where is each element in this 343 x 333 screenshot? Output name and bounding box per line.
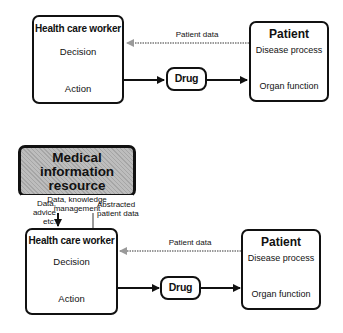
disease-process-label: Disease process xyxy=(251,45,327,55)
disease-process-label: Disease process xyxy=(243,253,319,263)
medical-information-resource-box: Medical information resource Data, knowl… xyxy=(18,145,136,197)
action-label: Action xyxy=(27,293,116,304)
health-care-worker-title: Health care worker xyxy=(27,235,116,246)
mir-title-line1: Medical information xyxy=(21,151,133,179)
abstracted-data-label: Abstracted patient data xyxy=(97,200,149,218)
patient-title: Patient xyxy=(251,27,327,41)
patient-box-bottom: Patient Disease process Organ function xyxy=(241,229,321,310)
data-advice-line1: Data, xyxy=(26,199,56,208)
drug-box-top: Drug xyxy=(166,67,207,91)
drug-label: Drug xyxy=(168,69,205,88)
abstracted-line2: patient data xyxy=(97,209,149,218)
decision-label: Decision xyxy=(27,256,116,267)
action-label: Action xyxy=(34,83,122,94)
patient-title: Patient xyxy=(243,235,319,249)
data-advice-label: Data, advice etc. xyxy=(26,199,56,226)
patient-data-label-top: Patient data xyxy=(162,30,232,39)
health-care-worker-title: Health care worker xyxy=(34,23,122,34)
data-advice-line3: etc. xyxy=(26,217,56,226)
organ-function-label: Organ function xyxy=(243,289,319,299)
mir-title-line2: resource xyxy=(21,179,133,193)
drug-box-bottom: Drug xyxy=(160,276,201,300)
patient-box-top: Patient Disease process Organ function xyxy=(249,21,329,102)
patient-data-label-bottom: Patient data xyxy=(155,238,225,247)
decision-label: Decision xyxy=(34,46,122,57)
organ-function-label: Organ function xyxy=(251,81,327,91)
data-advice-line2: advice xyxy=(26,208,56,217)
health-care-worker-box-bottom: Health care worker Decision Action xyxy=(25,228,118,315)
health-care-worker-box-top: Health care worker Decision Action xyxy=(32,15,124,104)
drug-label: Drug xyxy=(162,278,199,297)
abstracted-line1: Abstracted xyxy=(97,200,149,209)
